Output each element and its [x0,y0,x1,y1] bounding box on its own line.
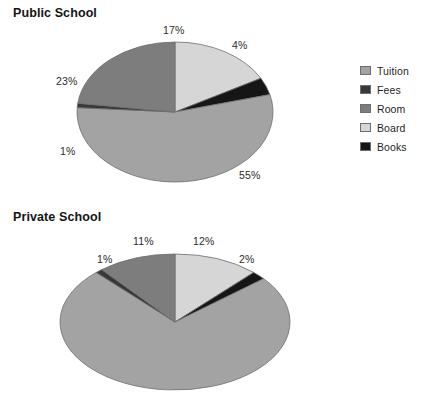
slice-percent-label: 1% [60,145,76,157]
legend-swatch-fees [360,85,371,94]
pie-slice-room [78,42,175,112]
slice-percent-label: 4% [232,39,248,51]
legend-item-label: Room [377,103,405,115]
legend-swatch-board [360,123,371,132]
legend-public-school: TuitionFeesRoomBoardBooks [360,61,423,156]
legend-item-room[interactable]: Room [360,99,423,118]
legend-item-tuition[interactable]: Tuition [360,61,423,80]
legend-item-label: Fees [377,84,401,96]
legend-swatch-room [360,104,371,113]
slice-percent-label: 12% [193,235,215,247]
slice-percent-label: 1% [97,253,113,265]
chart-private-school: Private School 11%12%1%2% TuitionFeesRoo… [0,204,423,408]
chart-public-school: Public School 17%4%23%1%55% TuitionFeesR… [0,0,423,204]
legend-swatch-books [360,142,371,151]
legend-item-fees[interactable]: Fees [360,80,423,99]
legend-item-books[interactable]: Books [360,137,423,156]
legend-item-label: Board [377,122,406,134]
legend-item-board[interactable]: Board [360,118,423,137]
legend-item-label: Tuition [377,65,409,77]
slice-percent-label: 55% [239,169,261,181]
slice-percent-label: 2% [239,253,255,265]
legend-swatch-tuition [360,66,371,75]
slice-percent-label: 11% [133,235,154,247]
slice-percent-label: 23% [56,75,78,87]
slice-percent-label: 17% [163,24,185,36]
legend-item-label: Books [377,141,407,153]
